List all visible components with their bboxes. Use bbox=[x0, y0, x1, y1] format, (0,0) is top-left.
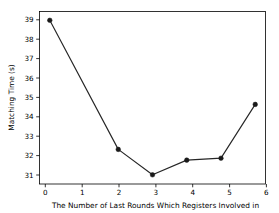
y-tick-label-34: 34 bbox=[24, 112, 34, 121]
x-tick-label-6: 6 bbox=[264, 188, 269, 197]
x-tick-label-2: 2 bbox=[117, 188, 122, 197]
data-point-x6 bbox=[253, 102, 258, 107]
x-tick-label-4: 4 bbox=[190, 188, 195, 197]
y-tick-label-38: 38 bbox=[24, 35, 34, 44]
x-axis-title: The Number of Last Rounds Which Register… bbox=[51, 201, 260, 210]
data-point-x2 bbox=[116, 147, 121, 152]
x-tick-label-5: 5 bbox=[227, 188, 232, 197]
x-tick-label-3: 3 bbox=[154, 188, 159, 197]
data-point-x5 bbox=[219, 156, 224, 161]
y-tick-label-31: 31 bbox=[24, 171, 33, 180]
y-tick-label-33: 33 bbox=[24, 132, 33, 141]
y-tick-label-32: 32 bbox=[24, 151, 33, 160]
y-axis-title: Matching Time (s) bbox=[7, 64, 16, 130]
line-chart-canvas: 31 32 33 34 35 36 37 38 39 0 1 2 3 4 5 bbox=[0, 0, 279, 213]
y-axis-tick-labels: 31 32 33 34 35 36 37 38 39 bbox=[24, 15, 34, 179]
x-tick-label-0: 0 bbox=[43, 188, 48, 197]
y-tick-label-37: 37 bbox=[24, 54, 33, 63]
chart-figure: 31 32 33 34 35 36 37 38 39 0 1 2 3 4 5 bbox=[0, 0, 279, 213]
y-tick-label-35: 35 bbox=[24, 93, 33, 102]
y-tick-label-39: 39 bbox=[24, 15, 34, 24]
figure-background bbox=[0, 0, 279, 213]
data-point-x0 bbox=[47, 18, 52, 23]
data-point-x3 bbox=[150, 173, 155, 178]
data-point-x4 bbox=[184, 158, 189, 163]
x-tick-label-1: 1 bbox=[80, 188, 85, 197]
y-tick-label-36: 36 bbox=[24, 74, 34, 83]
